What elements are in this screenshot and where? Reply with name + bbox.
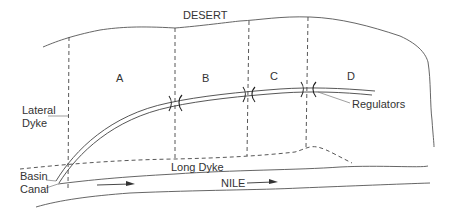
basin-d-label: D	[347, 70, 355, 82]
regulator-3	[301, 82, 316, 97]
basin-divider-1	[68, 37, 69, 190]
regulator-1	[169, 95, 182, 111]
basin-divider-3	[247, 21, 249, 156]
lateral-dyke-label-line1: Lateral	[22, 104, 56, 116]
flow-arrow-2	[247, 179, 278, 184]
long-dyke-label: Long Dyke	[171, 161, 224, 173]
desert-boundary	[43, 17, 434, 147]
nile-label: NILE	[221, 177, 245, 189]
basin-a-label: A	[116, 72, 124, 84]
basin-b-label: B	[202, 72, 209, 84]
flow-arrow-1	[97, 181, 135, 186]
basin-c-label: C	[270, 70, 278, 82]
regulators-leader	[318, 92, 350, 103]
basin-divider-4	[306, 17, 308, 147]
basin-canal-label-line2: Canal	[20, 183, 49, 195]
regulator-2	[243, 87, 255, 102]
regulators-label: Regulators	[352, 98, 406, 110]
basin-irrigation-diagram: DESERT A B C D Lateral Dyke Regulators B…	[0, 0, 454, 216]
lateral-dyke-label-line2: Dyke	[22, 117, 47, 129]
basin-canal-label-line1: Basin	[20, 170, 48, 182]
desert-label: DESERT	[183, 9, 228, 21]
